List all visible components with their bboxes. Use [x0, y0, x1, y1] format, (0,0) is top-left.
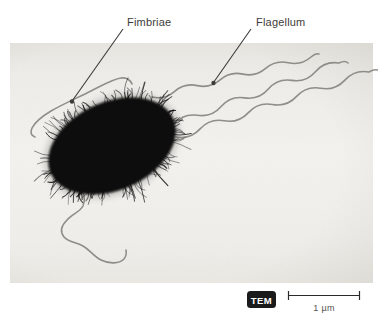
fimbriae-label: Fimbriae	[127, 16, 171, 28]
figure: Fimbriae Flagellum TEM 1 µm	[0, 0, 378, 330]
flagellum-label: Flagellum	[256, 16, 306, 28]
fimbriae-pointer-dot	[70, 99, 74, 103]
flagellum-pointer-dot	[211, 81, 215, 85]
tem-badge-label: TEM	[251, 295, 272, 306]
scale-bar	[289, 291, 360, 300]
micrograph-svg: Fimbriae Flagellum TEM 1 µm	[0, 0, 378, 330]
technique-badge: TEM	[247, 291, 276, 308]
scale-bar-label: 1 µm	[313, 303, 334, 313]
